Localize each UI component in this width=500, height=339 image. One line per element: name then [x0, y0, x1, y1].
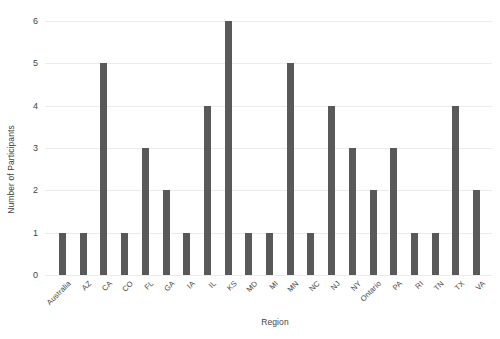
x-tick-label: AZ — [80, 279, 93, 292]
bar — [163, 190, 170, 275]
plot-area — [45, 21, 492, 275]
bar — [100, 63, 107, 275]
x-tick-label: VA — [474, 279, 487, 292]
x-axis-title: Region — [55, 317, 495, 327]
x-tick-label: RI — [413, 279, 425, 291]
bar — [142, 148, 149, 275]
x-tick-label: MN — [286, 279, 301, 294]
y-tick-label: 2 — [6, 185, 38, 195]
bar-chart-figure: Number of Participants 0123456 Australia… — [0, 0, 500, 339]
bar — [183, 233, 190, 275]
x-tick-label: CO — [120, 279, 135, 294]
bar — [411, 233, 418, 275]
x-tick-label: Ontario — [359, 279, 383, 303]
x-tick-label: Australia — [45, 279, 73, 307]
y-tick-label: 1 — [6, 228, 38, 238]
x-tick-label: NY — [349, 279, 363, 293]
x-tick-label: IL — [207, 279, 218, 290]
bar — [80, 233, 87, 275]
bar — [349, 148, 356, 275]
x-tick-label: FL — [143, 279, 156, 292]
bar — [245, 233, 252, 275]
bar — [370, 190, 377, 275]
x-tick-label: GA — [162, 279, 176, 293]
y-axis-tick-labels: 0123456 — [0, 0, 45, 339]
x-tick-label: PA — [391, 279, 404, 292]
x-tick-label: NJ — [329, 279, 342, 292]
y-tick-label: 6 — [6, 16, 38, 26]
x-tick-label: MD — [244, 279, 259, 294]
y-tick-label: 3 — [6, 143, 38, 153]
bar — [432, 233, 439, 275]
x-tick-label: TN — [432, 279, 446, 293]
bar — [225, 21, 232, 275]
bar — [452, 106, 459, 275]
x-tick-label: CA — [100, 279, 114, 293]
bar — [204, 106, 211, 275]
bar — [473, 190, 480, 275]
x-tick-label: MI — [267, 279, 279, 291]
bar — [287, 63, 294, 275]
x-tick-label: TX — [453, 279, 466, 292]
y-tick-label: 0 — [6, 270, 38, 280]
bar — [328, 106, 335, 275]
bar — [307, 233, 314, 275]
bar — [121, 233, 128, 275]
bar — [266, 233, 273, 275]
bar — [390, 148, 397, 275]
y-tick-label: 4 — [6, 101, 38, 111]
y-tick-label: 5 — [6, 58, 38, 68]
x-tick-label: NC — [307, 279, 321, 293]
bar — [59, 233, 66, 275]
x-tick-label: IA — [186, 279, 198, 291]
bars-group — [45, 21, 492, 275]
x-tick-label: KS — [225, 279, 239, 293]
